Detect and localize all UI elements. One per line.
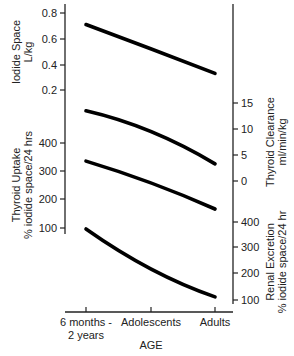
x-axis-title: AGE <box>139 339 162 351</box>
svg-text:Iodide Space: Iodide Space <box>10 20 22 84</box>
svg-text:0.4: 0.4 <box>42 59 57 71</box>
svg-text:5: 5 <box>241 149 247 161</box>
thyroid-clearance-ticks: 15 10 5 0 <box>233 97 253 187</box>
svg-text:200: 200 <box>241 267 259 279</box>
thyroid-uptake-ticks: 400 300 200 100 <box>39 137 65 234</box>
svg-text:% iodide space/24 hr: % iodide space/24 hr <box>276 210 288 313</box>
svg-text:L/kg: L/kg <box>22 42 34 63</box>
chart: 6 months - 2 years Adolescents Adults AG… <box>0 0 294 356</box>
x-category-label: Adolescents <box>121 316 181 328</box>
svg-text:Thyroid Clearance: Thyroid Clearance <box>264 97 276 187</box>
renal-excretion-ticks: 400 300 200 100 <box>233 216 259 306</box>
svg-text:10: 10 <box>241 123 253 135</box>
renal-excretion-axis-title: Renal Excretion % iodide space/24 hr <box>264 210 288 313</box>
thyroid-clearance-curve <box>86 111 215 164</box>
svg-text:100: 100 <box>39 222 57 234</box>
svg-text:0.8: 0.8 <box>42 7 57 19</box>
x-category-label: 2 years <box>68 329 105 341</box>
svg-text:300: 300 <box>241 241 259 253</box>
iodide-space-axis-title: Iodide Space L/kg <box>10 20 34 84</box>
svg-text:0.6: 0.6 <box>42 33 57 45</box>
x-ticks <box>86 307 215 312</box>
thyroid-uptake-curve <box>86 161 215 209</box>
svg-text:% iodide space/24 hrs: % iodide space/24 hrs <box>22 130 34 239</box>
x-category-label: 6 months - <box>60 316 112 328</box>
svg-text:Renal Excretion: Renal Excretion <box>264 223 276 301</box>
svg-text:ml/min/kg: ml/min/kg <box>276 118 288 165</box>
svg-text:100: 100 <box>241 294 259 306</box>
svg-text:Thyroid Uptake: Thyroid Uptake <box>10 148 22 223</box>
svg-text:300: 300 <box>39 165 57 177</box>
x-category-label: Adults <box>200 316 231 328</box>
thyroid-clearance-axis-title: Thyroid Clearance ml/min/kg <box>264 97 288 187</box>
svg-text:200: 200 <box>39 193 57 205</box>
renal-excretion-curve <box>86 229 215 297</box>
iodide-space-ticks: 0.8 0.6 0.4 0.2 <box>42 7 65 96</box>
svg-text:400: 400 <box>241 216 259 228</box>
svg-text:400: 400 <box>39 137 57 149</box>
svg-text:15: 15 <box>241 97 253 109</box>
data-curves <box>86 25 215 297</box>
iodide-space-curve <box>86 25 215 74</box>
svg-text:0: 0 <box>241 175 247 187</box>
svg-text:0.2: 0.2 <box>42 84 57 96</box>
thyroid-uptake-axis-title: Thyroid Uptake % iodide space/24 hrs <box>10 130 34 239</box>
